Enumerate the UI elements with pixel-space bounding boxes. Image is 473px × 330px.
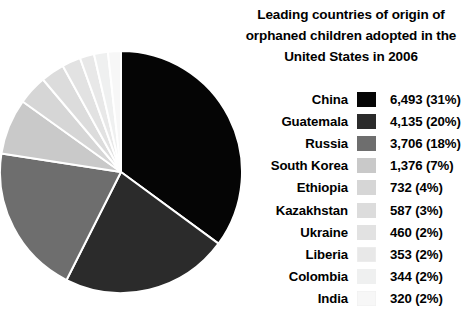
legend-label: Kazakhstan	[236, 203, 348, 218]
pie-chart-figure: Leading countries of origin of orphaned …	[0, 0, 473, 330]
pie-slices	[0, 51, 242, 293]
legend-row: Russia3,706 (18%)	[236, 132, 473, 154]
chart-title-line-1: Leading countries of origin of	[232, 4, 470, 25]
chart-title-line-2: orphaned children adopted in the	[232, 25, 470, 46]
legend-row: China6,493 (31%)	[236, 88, 473, 110]
legend-color-swatch	[357, 136, 376, 151]
legend-label: South Korea	[236, 158, 348, 173]
legend-value: 1,376 (7%)	[390, 158, 454, 173]
legend-value: 460 (2%)	[390, 225, 443, 240]
legend-label: Ukraine	[236, 225, 348, 240]
legend-color-swatch	[357, 203, 376, 218]
legend-value: 4,135 (20%)	[390, 114, 461, 129]
legend-color-swatch	[357, 225, 376, 240]
legend-color-swatch	[357, 92, 376, 107]
legend-value: 732 (4%)	[390, 180, 443, 195]
legend-color-swatch	[357, 269, 376, 284]
pie-chart-graphic	[0, 48, 244, 298]
legend-label: Liberia	[236, 247, 348, 262]
legend-color-swatch	[357, 180, 376, 195]
legend-value: 587 (3%)	[390, 203, 443, 218]
chart-title: Leading countries of origin of orphaned …	[232, 4, 470, 67]
legend-label: China	[236, 92, 348, 107]
legend-row: Ukraine460 (2%)	[236, 221, 473, 243]
pie-svg	[0, 48, 244, 298]
legend-row: Ethiopia732 (4%)	[236, 177, 473, 199]
chart-legend: China6,493 (31%)Guatemala4,135 (20%)Russ…	[236, 88, 473, 310]
legend-color-swatch	[357, 158, 376, 173]
chart-title-line-3: United States in 2006	[232, 46, 470, 67]
legend-row: Colombia344 (2%)	[236, 266, 473, 288]
legend-value: 353 (2%)	[390, 247, 443, 262]
legend-color-swatch	[357, 247, 376, 262]
legend-label: Ethiopia	[236, 180, 348, 195]
legend-color-swatch	[357, 291, 376, 306]
legend-value: 6,493 (31%)	[390, 92, 461, 107]
legend-label: Guatemala	[236, 114, 348, 129]
legend-row: South Korea1,376 (7%)	[236, 155, 473, 177]
legend-label: Colombia	[236, 269, 348, 284]
legend-row: Guatemala4,135 (20%)	[236, 110, 473, 132]
legend-label: Russia	[236, 136, 348, 151]
legend-row: Kazakhstan587 (3%)	[236, 199, 473, 221]
legend-label: India	[236, 291, 348, 306]
legend-row: India320 (2%)	[236, 288, 473, 310]
legend-value: 320 (2%)	[390, 291, 443, 306]
legend-value: 344 (2%)	[390, 269, 443, 284]
legend-row: Liberia353 (2%)	[236, 243, 473, 265]
legend-value: 3,706 (18%)	[390, 136, 461, 151]
legend-color-swatch	[357, 114, 376, 129]
